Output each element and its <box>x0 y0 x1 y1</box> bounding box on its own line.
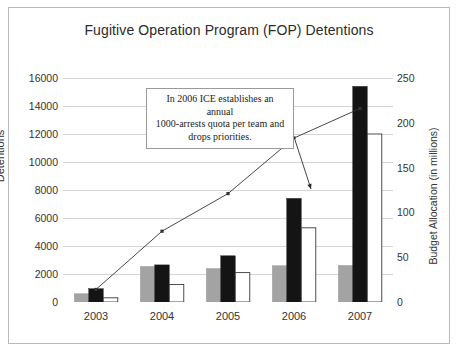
annotation-line-3: drops priorities. <box>152 131 288 144</box>
annotation-quota-note: In 2006 ICE establishes an annual 1000-a… <box>146 88 294 149</box>
bar-white-bars <box>235 273 250 302</box>
bar-white-bars <box>301 228 316 302</box>
bar-gray-bars <box>74 294 89 302</box>
bar-white-bars <box>169 285 184 303</box>
bar-black-bars <box>221 256 236 302</box>
y-axis-left-ticks: 1600014000120001000080006000400020000 <box>12 78 58 302</box>
bar-black-bars <box>353 86 368 302</box>
y-tick-label-left: 8000 <box>35 184 58 196</box>
x-tick-label: 2003 <box>84 310 108 322</box>
y-axis-right-ticks: 250200150100500 <box>397 78 431 302</box>
y-tick-label-left: 6000 <box>35 212 58 224</box>
x-tick-label: 2006 <box>282 310 306 322</box>
x-tick-label: 2007 <box>348 310 372 322</box>
bar-black-bars <box>287 198 302 302</box>
y-tick-label-right: 50 <box>397 251 409 263</box>
y-tick-label-right: 250 <box>397 72 415 84</box>
y-tick-label-left: 16000 <box>29 72 58 84</box>
budget-line-marker <box>358 107 361 110</box>
budget-line-marker <box>226 192 229 195</box>
budget-line-marker <box>160 230 163 233</box>
y-tick-label-right: 150 <box>397 162 415 174</box>
y-tick-label-left: 12000 <box>29 128 58 140</box>
y-tick-label-right: 200 <box>397 117 415 129</box>
y-axis-title-left: Detentions <box>0 130 6 183</box>
x-tick-label: 2004 <box>150 310 174 322</box>
y-tick-label-right: 100 <box>397 206 415 218</box>
y-tick-label-left: 2000 <box>35 268 58 280</box>
annotation-line-1: In 2006 ICE establishes an annual <box>152 93 288 118</box>
bar-white-bars <box>367 134 382 302</box>
budget-line-marker <box>94 288 97 291</box>
y-tick-label-left: 10000 <box>29 156 58 168</box>
chart-title: Fugitive Operation Program (FOP) Detenti… <box>0 22 458 38</box>
bar-white-bars <box>103 298 118 302</box>
y-tick-label-left: 4000 <box>35 240 58 252</box>
y-tick-label-right: 0 <box>397 296 403 308</box>
annotation-line-2: 1000-arrests quota per team and <box>152 118 288 131</box>
bar-gray-bars <box>338 265 353 302</box>
y-tick-label-left: 0 <box>52 296 58 308</box>
bar-gray-bars <box>206 268 221 302</box>
y-tick-label-left: 14000 <box>29 100 58 112</box>
bar-black-bars <box>155 265 170 302</box>
bar-gray-bars <box>272 266 287 302</box>
bar-gray-bars <box>140 266 155 302</box>
chart-figure: Fugitive Operation Program (FOP) Detenti… <box>0 0 458 352</box>
x-tick-label: 2005 <box>216 310 240 322</box>
